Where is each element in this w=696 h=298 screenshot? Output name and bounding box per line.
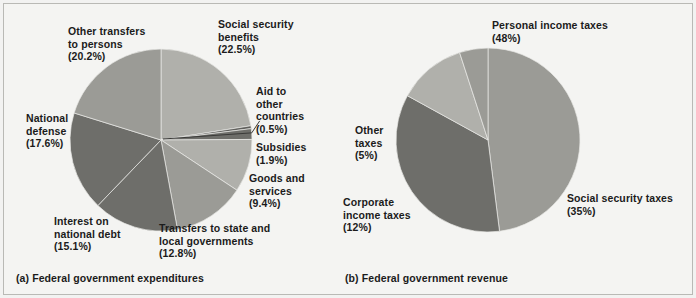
caption-expenditures: (a) Federal government expenditures [16,272,204,284]
slice-label-interest-on-national-debt: Interest onnational debt(15.1%) [54,215,121,253]
slice-label-social-security-benefits: Social securitybenefits(22.5%) [218,18,294,56]
slice-label-line: countries [256,110,304,123]
slice-label-line: Personal income taxes [492,19,608,32]
slice-label-personal-income-taxes: Personal income taxes(48%) [492,19,608,44]
slice-label-line: (35%) [567,205,673,218]
slice-label-line: Goods and [249,172,305,185]
slice-label-line: (12.8%) [159,247,270,260]
slice-label-line: Social security [218,18,294,31]
slice-label-goods-and-services: Goods andservices(9.4%) [249,172,305,210]
slice-label-line: Interest on [54,215,121,228]
slice-label-line: (20.2%) [68,50,145,63]
slice-label-line: (5%) [355,149,384,162]
slice-label-line: taxes [355,137,384,150]
slice-label-line: Corporate [343,196,411,209]
slice-label-line: services [249,185,305,198]
figure-container: Social securitybenefits(22.5%)Aid toothe… [0,0,696,298]
slice-label-line: (1.9%) [256,154,307,167]
slice-label-line: Subsidies [256,141,307,154]
slice-label-line: local governments [159,235,270,248]
slice-label-line: defense [26,125,68,138]
slice-label-aid-to-other-countries: Aid toothercountries(0.5%) [256,85,304,135]
slice-label-line: (9.4%) [249,197,305,210]
slice-label-line: (0.5%) [256,123,304,136]
slice-label-line: National [26,112,68,125]
slice-label-line: Transfers to state and [159,222,270,235]
slice-label-line: income taxes [343,209,411,222]
slice-label-line: national debt [54,228,121,241]
slice-label-line: (22.5%) [218,43,294,56]
slice-label-line: Other transfers [68,25,145,38]
slice-label-social-security-taxes: Social security taxes(35%) [567,192,673,217]
slice-label-line: benefits [218,31,294,44]
slice-label-line: (15.1%) [54,240,121,253]
slice-label-line: (17.6%) [26,137,68,150]
caption-revenue: (b) Federal government revenue [345,272,508,284]
slice-label-line: Social security taxes [567,192,673,205]
slice-label-line: (48%) [492,32,608,45]
slice-label-line: other [256,98,304,111]
slice-label-line: to persons [68,38,145,51]
slice-label-line: Other [355,124,384,137]
slice-label-corporate-income-taxes: Corporateincome taxes(12%) [343,196,411,234]
slice-label-subsidies: Subsidies(1.9%) [256,141,307,166]
slice-label-other-taxes: Othertaxes(5%) [355,124,384,162]
slice-label-line: (12%) [343,221,411,234]
slice-label-transfers-to-state-and-local-governments: Transfers to state andlocal governments(… [159,222,270,260]
slice-label-other-transfers-to-persons: Other transfersto persons(20.2%) [68,25,145,63]
slice-label-national-defense: Nationaldefense(17.6%) [26,112,68,150]
slice-label-line: Aid to [256,85,304,98]
